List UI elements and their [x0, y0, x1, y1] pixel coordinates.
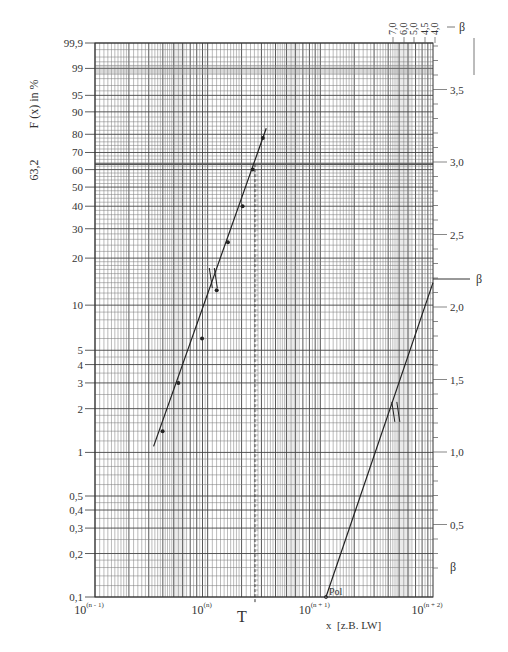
x-axis-label: x [z.B. LW]: [326, 619, 381, 631]
beta-tick-label: 3,5: [450, 84, 464, 96]
y-tick-label: 1: [78, 446, 84, 458]
data-point: [200, 337, 204, 341]
beta-tick-label: 3,0: [450, 156, 464, 168]
y-tick-label: 50: [72, 181, 84, 193]
y-tick-label: 3: [78, 377, 84, 389]
best-fit-line: [154, 128, 267, 446]
y-tick-label: 4: [78, 359, 84, 371]
y-tick-label: 0,2: [69, 548, 83, 560]
beta-tick-label: 2,0: [450, 301, 464, 313]
beta-tick-label: 2,5: [450, 229, 464, 241]
beta-top-tick-label: 4,0: [429, 23, 440, 36]
y-tick-label: 60: [72, 164, 84, 176]
beta-tick-label: 1,5: [450, 374, 464, 386]
beta-result-label: β: [476, 272, 482, 286]
y-tick-label: 10: [72, 299, 84, 311]
beta-tick-label: 1,0: [450, 446, 464, 458]
beta-top-tick-label: 7,0: [387, 23, 398, 36]
y-tick-label: 2: [78, 403, 84, 415]
characteristic-line-label: 63,2: [27, 160, 41, 181]
y-tick-label: 0,5: [69, 490, 83, 502]
x-tick-label: 10(n): [192, 601, 213, 617]
x-tick-label: 10(n - 1): [74, 601, 104, 617]
data-point: [241, 204, 245, 208]
x-axis-tick-labels: 10(n - 1)10(n)10(n + 1)10(n + 2): [74, 601, 443, 617]
x-tick-label: 10(n + 2): [411, 601, 443, 617]
y-tick-label: 0,3: [69, 522, 83, 534]
data-point: [161, 429, 165, 433]
y-tick-label: 99: [72, 62, 84, 74]
y-tick-label: 5: [78, 344, 84, 356]
y-axis-tick-labels: 99,99995908070605040302010543210,50,40,3…: [64, 37, 84, 603]
beta-axis-label: β: [450, 560, 456, 574]
y-tick-label: 80: [72, 128, 84, 140]
grid: [95, 43, 433, 597]
x-tick-label: 10(n + 1): [299, 601, 331, 617]
t-marker-label: T: [237, 608, 247, 625]
y-tick-label: 0,4: [69, 504, 83, 516]
beta-top-label: β: [459, 20, 465, 34]
y-tick-label: 0,1: [69, 591, 83, 603]
pole-label: Pol: [329, 586, 343, 597]
y-tick-label: 95: [72, 89, 84, 101]
y-tick-label: 99,9: [64, 37, 84, 49]
beta-top-tick-label: 5,0: [408, 23, 419, 36]
y-tick-label: 90: [72, 106, 84, 118]
y-axis-label: F (x) in %: [27, 80, 41, 129]
y-tick-label: 20: [72, 252, 84, 264]
y-tick-label: 40: [72, 200, 84, 212]
weibull-probability-chart: 99,99995908070605040302010543210,50,40,3…: [0, 0, 508, 652]
y-tick-label: 70: [72, 146, 84, 158]
beta-tick-label: 0,5: [450, 519, 464, 531]
pole-parallel-line: [326, 283, 433, 597]
data-point: [215, 288, 219, 292]
y-tick-label: 30: [72, 223, 84, 235]
